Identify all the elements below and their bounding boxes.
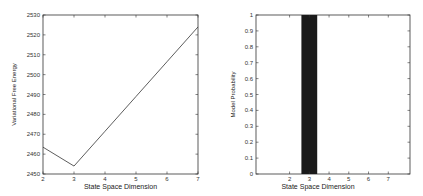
x-axis-label: State Space Dimension (84, 183, 157, 191)
y-axis-label: Variational Free Energy (11, 63, 17, 126)
x-tick-label: 3 (72, 176, 76, 182)
y-tick-label: 2480 (27, 111, 41, 117)
x-tick-label: 6 (165, 176, 169, 182)
x-tick-label: 4 (103, 176, 107, 182)
y-tick-label: 2510 (27, 52, 41, 58)
x-tick-label: 2 (288, 176, 292, 182)
x-tick-label: 7 (196, 176, 200, 182)
free-energy-chart: 2450246024702480249025002510252025302345… (11, 12, 200, 191)
model-probability-chart: 00.10.20.30.40.50.60.70.80.91234567State… (230, 12, 410, 191)
y-tick-label: 2470 (27, 131, 41, 137)
x-tick-label: 4 (327, 176, 331, 182)
y-tick-label: 2500 (27, 72, 41, 78)
model-probability-plot-area (256, 15, 410, 174)
y-tick-label: 0.8 (245, 44, 254, 50)
y-tick-label: 2520 (27, 32, 41, 38)
x-tick-label: 7 (387, 176, 391, 182)
y-tick-label: 2450 (27, 171, 41, 177)
y-tick-label: 1 (250, 12, 254, 18)
x-axis-label: State Space Dimension (281, 183, 354, 191)
y-tick-label: 0.6 (245, 76, 254, 82)
y-tick-label: 0.1 (245, 155, 254, 161)
y-axis-label: Model Probability (230, 71, 236, 117)
y-tick-label: 0.7 (245, 60, 254, 66)
free-energy-line (43, 27, 198, 166)
y-tick-label: 0.9 (245, 28, 254, 34)
y-tick-label: 2490 (27, 92, 41, 98)
probability-bar (301, 15, 317, 174)
y-tick-label: 0 (250, 171, 254, 177)
y-tick-label: 0.5 (245, 92, 254, 98)
y-tick-label: 2460 (27, 151, 41, 157)
y-tick-label: 0.3 (245, 123, 254, 129)
figure: 2450246024702480249025002510252025302345… (0, 0, 423, 196)
free-energy-plot-area (43, 15, 198, 174)
y-tick-label: 0.2 (245, 139, 254, 145)
x-tick-label: 5 (134, 176, 138, 182)
y-tick-label: 2530 (27, 12, 41, 18)
x-tick-label: 3 (308, 176, 312, 182)
x-tick-label: 5 (347, 176, 351, 182)
y-tick-label: 0.4 (245, 107, 254, 113)
x-tick-label: 6 (367, 176, 371, 182)
x-tick-label: 2 (41, 176, 45, 182)
